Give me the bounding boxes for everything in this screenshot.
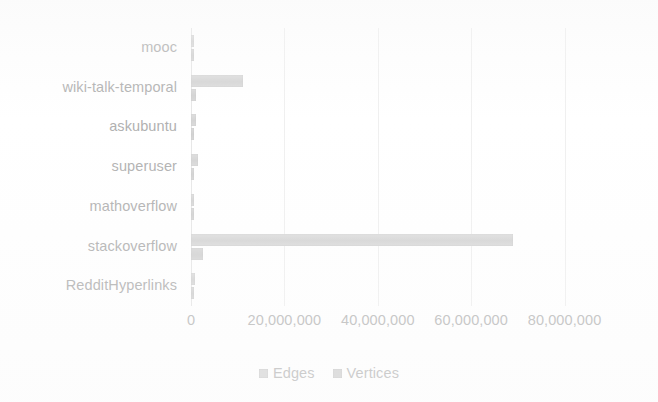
bar-vertices <box>191 248 203 260</box>
bar-edges <box>191 114 196 126</box>
bar-group <box>191 227 603 267</box>
bar-group <box>191 68 603 108</box>
y-axis-tick-label: stackoverflow <box>88 227 177 267</box>
x-axis-tick-label: 40,000,000 <box>341 312 415 328</box>
x-axis-tick-label: 0 <box>187 312 195 328</box>
y-axis-tick-label: mooc <box>141 28 177 68</box>
y-axis-tick-label: mathoverflow <box>90 187 177 227</box>
legend-item-edges: Edges <box>259 365 315 381</box>
bar-group <box>191 187 603 227</box>
bar-group <box>191 266 603 306</box>
chart-legend: Edges Vertices <box>0 365 658 381</box>
legend-label-vertices: Vertices <box>347 365 399 381</box>
bar-vertices <box>191 287 194 299</box>
y-axis-tick-label: wiki-talk-temporal <box>62 68 177 108</box>
y-axis-labels: moocwiki-talk-temporalaskubuntusuperuser… <box>0 28 185 306</box>
x-axis-labels: 020,000,00040,000,00060,000,00080,000,00… <box>0 312 658 334</box>
bar-edges <box>191 154 198 166</box>
bar-vertices <box>191 89 196 101</box>
bar-edges <box>191 75 243 87</box>
bar-edges <box>191 35 194 47</box>
bar-chart: moocwiki-talk-temporalaskubuntusuperuser… <box>0 0 658 402</box>
y-axis-tick-label: superuser <box>112 147 177 187</box>
bar-edges <box>191 273 195 285</box>
bar-group <box>191 28 603 68</box>
y-axis-tick-label: askubuntu <box>109 107 177 147</box>
bar-vertices <box>191 49 194 61</box>
bar-vertices <box>191 168 194 180</box>
bar-edges <box>191 194 194 206</box>
bar-group <box>191 147 603 187</box>
legend-item-vertices: Vertices <box>333 365 399 381</box>
bar-vertices <box>191 128 194 140</box>
x-axis-tick-label: 60,000,000 <box>434 312 508 328</box>
bar-group <box>191 107 603 147</box>
bar-edges <box>191 234 513 246</box>
legend-swatch-icon-edges <box>259 369 268 378</box>
legend-label-edges: Edges <box>273 365 315 381</box>
x-axis-tick-label: 80,000,000 <box>528 312 602 328</box>
x-axis-tick-label: 20,000,000 <box>248 312 322 328</box>
legend-swatch-icon-vertices <box>333 369 342 378</box>
bar-vertices <box>191 208 194 220</box>
y-axis-tick-label: RedditHyperlinks <box>66 266 177 306</box>
plot-area <box>191 28 603 306</box>
